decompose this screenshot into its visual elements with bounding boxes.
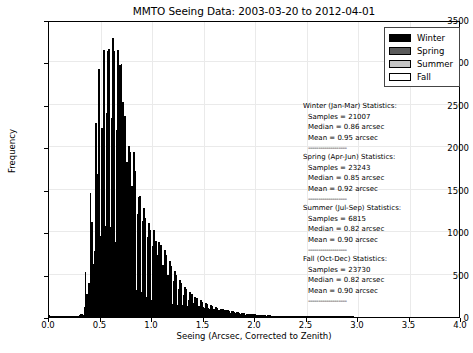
stats-block-spring: Spring (Apr-Jun) Statistics: Samples = 2… [303, 152, 395, 205]
y-tick-label: 1500 [429, 186, 473, 196]
legend-swatch-spring-icon [389, 47, 411, 55]
stats-heading-spring: Spring (Apr-Jun) Statistics: [303, 152, 395, 163]
histogram-bar-fall [352, 316, 354, 317]
y-tick-label: 1000 [429, 228, 473, 238]
stats-heading-fall: Fall (Oct-Dec) Statistics: [303, 254, 387, 265]
y-tick-mark [44, 63, 48, 64]
stats-samples-fall: Samples = 23730 [303, 265, 387, 276]
stats-heading-summer: Summer (Jul-Sep) Statistics: [303, 203, 401, 214]
stats-block-fall: Fall (Oct-Dec) Statistics: Samples = 237… [303, 254, 387, 307]
legend-swatch-summer-icon [389, 60, 411, 68]
x-tick-mark [460, 318, 461, 322]
stats-median-winter: Median = 0.86 arcsec [303, 122, 397, 133]
y-tick-label: 2000 [429, 143, 473, 153]
legend-item-winter[interactable]: Winter [389, 31, 453, 44]
legend-swatch-winter-icon [389, 34, 411, 42]
legend-swatch-fall-icon [389, 73, 411, 81]
stats-mean-fall: Mean = 0.90 arcsec [303, 286, 387, 297]
chart-figure: MMTO Seeing Data: 2003-03-20 to 2012-04-… [0, 0, 473, 353]
y-tick-mark [44, 21, 48, 22]
legend-label-fall: Fall [417, 72, 431, 82]
stats-median-summer: Median = 0.82 arcsec [303, 224, 401, 235]
y-tick-mark [44, 148, 48, 149]
x-tick-mark [409, 318, 410, 322]
legend-label-spring: Spring [417, 46, 444, 56]
x-tick-mark [203, 318, 204, 322]
y-tick-label: 2500 [429, 101, 473, 111]
stats-median-spring: Median = 0.85 arcsec [303, 173, 395, 184]
x-tick-mark [48, 318, 49, 322]
x-axis-label: Seeing (Arcsec, Corrected to Zenith) [48, 331, 460, 341]
y-tick-label: 3500 [429, 16, 473, 26]
x-tick-mark [254, 318, 255, 322]
y-tick-label: 500 [429, 271, 473, 281]
stats-mean-summer: Mean = 0.90 arcsec [303, 235, 401, 246]
stats-heading-winter: Winter (Jan-Mar) Statistics: [303, 101, 397, 112]
x-tick-label: 4.0 [440, 320, 473, 330]
x-tick-mark [306, 318, 307, 322]
y-tick-mark [44, 276, 48, 277]
x-tick-mark [357, 318, 358, 322]
y-tick-mark [44, 106, 48, 107]
legend-item-spring[interactable]: Spring [389, 44, 453, 57]
chart-title: MMTO Seeing Data: 2003-03-20 to 2012-04-… [48, 5, 460, 17]
chart-legend: Winter Spring Summer Fall [384, 27, 460, 87]
stats-block-summer: Summer (Jul-Sep) Statistics: Samples = 6… [303, 203, 401, 256]
stats-samples-winter: Samples = 21007 [303, 112, 397, 123]
legend-item-fall[interactable]: Fall [389, 70, 453, 83]
legend-label-summer: Summer [417, 59, 453, 69]
y-tick-mark [44, 191, 48, 192]
stats-samples-spring: Samples = 23243 [303, 163, 395, 174]
x-tick-mark [151, 318, 152, 322]
legend-label-winter: Winter [417, 33, 445, 43]
stats-mean-winter: Mean = 0.95 arcsec [303, 133, 397, 144]
x-tick-mark [100, 318, 101, 322]
stats-samples-summer: Samples = 6815 [303, 214, 401, 225]
stats-block-winter: Winter (Jan-Mar) Statistics: Samples = 2… [303, 101, 397, 154]
y-axis-label: Frequency [7, 101, 17, 201]
stats-mean-spring: Mean = 0.92 arcsec [303, 184, 395, 195]
stats-rule-fall: ------------------- [303, 296, 387, 307]
legend-item-summer[interactable]: Summer [389, 57, 453, 70]
stats-median-fall: Median = 0.82 arcsec [303, 275, 387, 286]
y-tick-mark [44, 233, 48, 234]
